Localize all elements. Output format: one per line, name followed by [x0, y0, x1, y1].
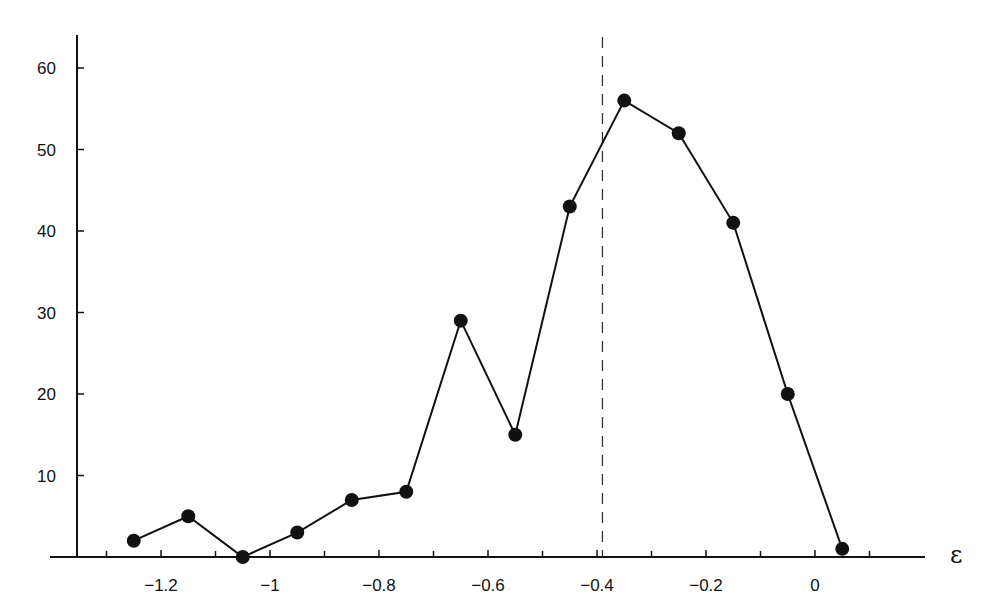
x-tick-label: −0.6 — [471, 576, 505, 595]
y-tick-label: 50 — [37, 141, 56, 160]
x-axis-label: ε — [950, 541, 962, 569]
data-point-marker — [617, 94, 631, 108]
data-point-marker — [181, 509, 195, 523]
x-tick-label: −0.2 — [689, 576, 723, 595]
x-tick-label: −0.8 — [362, 576, 396, 595]
data-point-marker — [236, 550, 250, 564]
x-tick-label: 0 — [810, 576, 819, 595]
x-tick-label: −0.4 — [580, 576, 614, 595]
data-point-marker — [835, 542, 849, 556]
line-chart: 102030405060 −1.2−1−0.8−0.6−0.4−0.20 ε — [0, 0, 989, 615]
axes: 102030405060 −1.2−1−0.8−0.6−0.4−0.20 ε — [37, 35, 962, 595]
data-point-marker — [399, 485, 413, 499]
data-point-marker — [290, 526, 304, 540]
data-point-marker — [672, 126, 686, 140]
y-tick-label: 10 — [37, 467, 56, 486]
x-tick-label: −1 — [260, 576, 279, 595]
y-tick-label: 20 — [37, 385, 56, 404]
data-point-marker — [454, 314, 468, 328]
series-line — [134, 101, 843, 557]
data-point-marker — [508, 428, 522, 442]
y-tick-label: 30 — [37, 304, 56, 323]
data-point-marker — [127, 534, 141, 548]
data-point-marker — [563, 200, 577, 214]
x-tick-label: −1.2 — [144, 576, 178, 595]
data-point-marker — [345, 493, 359, 507]
y-tick-label: 40 — [37, 222, 56, 241]
data-point-marker — [781, 387, 795, 401]
data-series — [127, 94, 850, 564]
data-point-marker — [726, 216, 740, 230]
y-tick-label: 60 — [37, 59, 56, 78]
